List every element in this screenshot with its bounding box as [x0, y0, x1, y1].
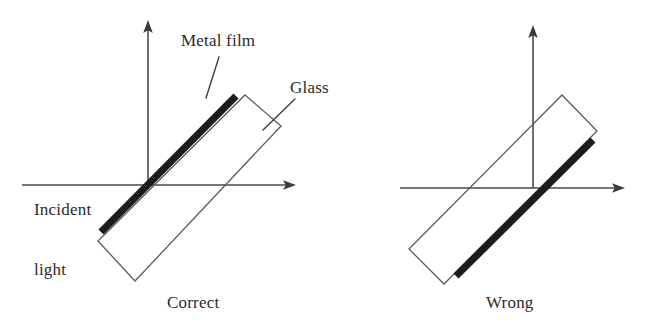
caption-correct: Correct [167, 293, 219, 313]
caption-wrong: Wrong [486, 293, 534, 313]
incident-light-label: Incident light [34, 160, 91, 320]
optics-orientation-figure: Metal film Glass Incident light Correct … [0, 0, 651, 332]
glass-slab-wrong [409, 95, 597, 284]
metal-film-label: Metal film [181, 31, 255, 51]
glass-label: Glass [290, 78, 329, 98]
metal-film-correct [101, 96, 236, 232]
metal-film-leader-line [206, 57, 219, 98]
glass-slab-correct [98, 95, 281, 281]
panel-wrong [400, 25, 625, 284]
incident-light-label-line1: Incident [34, 200, 91, 220]
figure-canvas [0, 0, 651, 332]
metal-film-wrong [456, 140, 593, 276]
incident-light-label-line2: light [34, 260, 91, 280]
